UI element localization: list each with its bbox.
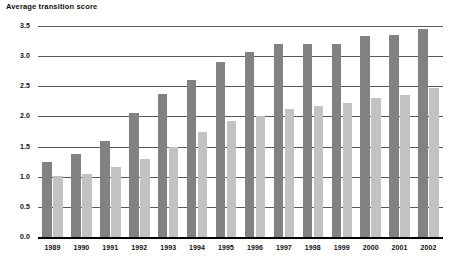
y-axis-tick-label: 0.5 — [0, 203, 30, 210]
x-axis-tick-label: 2000 — [356, 244, 385, 251]
bar-group — [303, 26, 324, 237]
bar — [360, 36, 370, 237]
x-axis-tick-label: 1992 — [125, 244, 154, 251]
bar — [389, 35, 399, 237]
bar — [42, 162, 52, 237]
bar — [429, 88, 439, 237]
bar — [216, 62, 226, 237]
bar-group — [389, 26, 410, 237]
bar-group — [129, 26, 150, 237]
x-axis-tick-label: 1995 — [212, 244, 241, 251]
x-axis-tick-label: 1999 — [327, 244, 356, 251]
bar — [140, 159, 150, 237]
bar — [111, 167, 121, 238]
bar — [227, 121, 237, 237]
gridline — [38, 207, 443, 208]
y-axis-tick-label: 0.0 — [0, 233, 30, 240]
bar-group — [158, 26, 179, 237]
bar — [71, 154, 81, 237]
y-axis-tick-label: 3.5 — [0, 22, 30, 29]
bar — [274, 44, 284, 237]
x-axis-line — [38, 237, 443, 239]
x-axis-tick-label: 1991 — [96, 244, 125, 251]
x-axis-tick-label: 1998 — [298, 244, 327, 251]
bar-group — [418, 26, 439, 237]
bar — [53, 176, 63, 238]
y-axis-tick-label: 2.5 — [0, 82, 30, 89]
bar-group — [245, 26, 266, 237]
bar-group — [274, 26, 295, 237]
bar-group — [360, 26, 381, 237]
gridline — [38, 86, 443, 87]
gridline — [38, 147, 443, 148]
bar — [158, 94, 168, 238]
x-axis-tick-label: 1996 — [241, 244, 270, 251]
x-axis-tick-label: 1990 — [67, 244, 96, 251]
gridline — [38, 116, 443, 117]
bar — [129, 113, 139, 237]
x-axis-tick-label: 1994 — [183, 244, 212, 251]
chart-title: Average transition score — [6, 2, 97, 11]
bar-group — [42, 26, 63, 237]
bar — [187, 80, 197, 237]
bar — [285, 109, 295, 237]
gridline — [38, 26, 443, 27]
bar-group — [71, 26, 92, 237]
bar-chart: Average transition score 0.00.51.01.52.0… — [0, 0, 451, 266]
gridline — [38, 177, 443, 178]
y-axis-tick-label: 1.5 — [0, 143, 30, 150]
gridline — [38, 56, 443, 57]
bar — [303, 44, 313, 237]
bar — [245, 52, 255, 237]
y-axis-tick-label: 3.0 — [0, 52, 30, 59]
plot-area — [38, 26, 443, 237]
bar — [82, 174, 92, 237]
bar — [343, 103, 353, 237]
x-axis-tick-label: 1993 — [154, 244, 183, 251]
bar — [256, 116, 266, 237]
bar — [314, 106, 324, 237]
bar — [198, 132, 208, 238]
bar-group — [332, 26, 353, 237]
y-axis-tick-label: 2.0 — [0, 112, 30, 119]
bar-group — [100, 26, 121, 237]
bar — [169, 147, 179, 237]
bar-group — [216, 26, 237, 237]
x-axis-tick-label: 2001 — [385, 244, 414, 251]
x-axis-tick-label: 1997 — [269, 244, 298, 251]
bar — [332, 44, 342, 237]
y-axis-tick-label: 1.0 — [0, 173, 30, 180]
bar — [100, 141, 110, 238]
bar — [418, 29, 428, 237]
x-axis-tick-label: 2002 — [414, 244, 443, 251]
bar — [371, 98, 381, 237]
bar — [400, 95, 410, 237]
x-axis-tick-label: 1989 — [38, 244, 67, 251]
bar-group — [187, 26, 208, 237]
